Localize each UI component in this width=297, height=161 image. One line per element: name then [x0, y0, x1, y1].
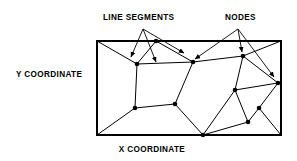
- line-segment: [175, 62, 193, 104]
- line-segment: [156, 41, 193, 62]
- leader-arrow-node: [238, 29, 274, 77]
- network-node: [246, 120, 251, 125]
- line-segment: [248, 108, 259, 122]
- network-node: [241, 54, 246, 59]
- line-segment: [137, 41, 156, 64]
- network-node: [133, 106, 138, 111]
- leader-arrow-node: [195, 29, 238, 59]
- leader-arrow-line-segment: [143, 29, 156, 62]
- line-segment: [243, 56, 278, 83]
- nodes-leader-arrows: [195, 29, 274, 77]
- label-x-coordinate: X COORDINATE: [119, 145, 186, 154]
- label-y-coordinate: Y COORDINATE: [16, 70, 82, 79]
- line-segment: [137, 62, 193, 64]
- plot-frame-border: [97, 41, 281, 135]
- line-segment: [259, 83, 278, 108]
- nodes-group: [133, 39, 281, 138]
- line-segment: [235, 90, 248, 122]
- label-line-segments: LINE SEGMENTS: [103, 13, 175, 22]
- network-node: [135, 62, 140, 67]
- label-nodes: NODES: [225, 13, 256, 22]
- network-node: [201, 133, 206, 138]
- line-segment: [235, 56, 243, 90]
- line-segment: [97, 41, 137, 64]
- plot-frame: [97, 41, 281, 135]
- network-node: [173, 102, 178, 107]
- line-segment: [259, 108, 281, 135]
- line-segment: [203, 90, 235, 135]
- line-segment: [175, 104, 203, 135]
- network-node: [233, 88, 238, 93]
- line-segment: [193, 56, 243, 62]
- network-node: [191, 60, 196, 65]
- line-segment: [235, 83, 278, 90]
- line-segment: [97, 108, 135, 135]
- polygon-network-diagram: LINE SEGMENTS NODES Y COORDINATE X COORD…: [0, 0, 297, 161]
- line-segments-group: [97, 41, 281, 135]
- diagram-canvas: LINE SEGMENTS NODES Y COORDINATE X COORD…: [0, 0, 297, 161]
- leader-arrow-line-segment: [131, 29, 143, 57]
- line-segments-leader-arrows: [131, 29, 184, 62]
- line-segment: [203, 122, 248, 135]
- line-segment: [135, 104, 175, 108]
- line-segment: [135, 64, 137, 108]
- network-node: [154, 39, 159, 44]
- network-node: [257, 106, 262, 111]
- network-node: [276, 81, 281, 86]
